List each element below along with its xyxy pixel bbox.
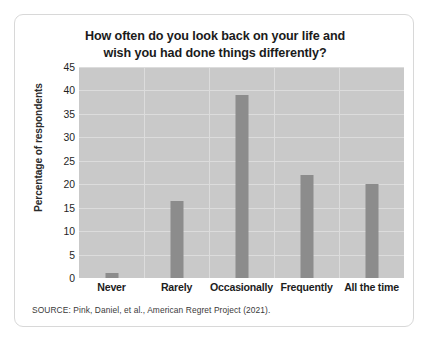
- chart-card: How often do you look back on your life …: [14, 14, 414, 327]
- chart-title: How often do you look back on your life …: [29, 28, 401, 61]
- bar-rarely: [170, 201, 183, 278]
- gridline-vertical: [144, 67, 145, 278]
- chart-title-line-1: How often do you look back on your life …: [85, 29, 345, 43]
- y-tick-label: 35: [63, 108, 75, 119]
- source-note: SOURCE: Pink, Daniel, et al., American R…: [32, 305, 270, 315]
- bar-never: [105, 273, 118, 278]
- y-tick-label: 10: [63, 226, 75, 237]
- gridline-vertical: [339, 67, 340, 278]
- x-tick-label-all-the-time: All the time: [344, 281, 399, 293]
- y-tick-label: 5: [69, 249, 75, 260]
- y-axis-label: Percentage of respondents: [33, 63, 44, 233]
- y-axis-tick-labels: 051015202530354045: [51, 67, 75, 278]
- y-tick-label: 30: [63, 132, 75, 143]
- y-tick-label: 0: [69, 273, 75, 284]
- x-axis-tick-labels: NeverRarelyOccasionallyFrequentlyAll the…: [79, 281, 404, 297]
- gridline-vertical: [274, 67, 275, 278]
- gridline-vertical: [209, 67, 210, 278]
- x-tick-label-never: Never: [97, 281, 125, 293]
- plot-area: [79, 67, 404, 278]
- y-tick-label: 25: [63, 155, 75, 166]
- bar-occasionally: [235, 95, 248, 278]
- bar-frequently: [300, 175, 313, 278]
- bar-all-the-time: [365, 184, 378, 278]
- chart-title-line-2: wish you had done things differently?: [104, 46, 327, 60]
- y-tick-label: 15: [63, 202, 75, 213]
- x-tick-label-occasionally: Occasionally: [210, 281, 273, 293]
- y-tick-label: 40: [63, 85, 75, 96]
- x-tick-label-rarely: Rarely: [161, 281, 192, 293]
- y-tick-label: 20: [63, 179, 75, 190]
- y-tick-label: 45: [63, 62, 75, 73]
- gridline-horizontal: [79, 67, 404, 68]
- gridline-horizontal: [79, 90, 404, 91]
- x-tick-label-frequently: Frequently: [280, 281, 332, 293]
